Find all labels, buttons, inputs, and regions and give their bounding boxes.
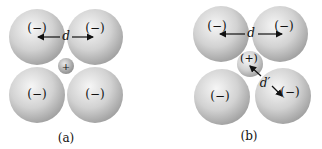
anion-label: (−) [207,19,226,33]
cation-label: (+) [240,52,258,65]
distance-label-d-prime: d′ [260,76,271,90]
distance-label-d: d [62,29,70,43]
ionic-packing-diagram: (−) (−) (−) (−) + d (a) (−) (−) (−) (−) … [0,0,322,149]
cation-label: + [62,61,70,72]
anion-label: (−) [85,87,104,101]
anion-label: (−) [274,19,293,33]
distance-label-d: d [247,26,255,40]
anion-label: (−) [85,21,104,35]
anion-label: (−) [210,89,229,103]
anion-label: (−) [27,21,46,35]
anion-label: (−) [27,87,46,101]
panel-caption-b: (b) [240,129,257,143]
panel-b: (−) (−) (−) (−) (+) d d′ (b) [193,6,311,143]
anion-label: (−) [280,85,299,99]
panel-a: (−) (−) (−) (−) + d (a) [9,9,123,145]
panel-caption-a: (a) [58,131,75,145]
